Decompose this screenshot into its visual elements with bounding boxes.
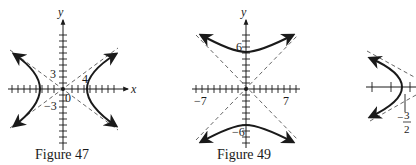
figure-caption-49: Figure 49 <box>217 147 271 163</box>
tick-label-origin: 0 <box>65 91 71 105</box>
tick-label-x-neg: −7 <box>194 94 207 108</box>
figure-47: y x 3 −3 4 0 <box>8 5 137 150</box>
figure-49: y 6 −6 −7 7 <box>192 5 300 148</box>
tick-label-x-pos: 4 <box>82 72 88 86</box>
origin-dot <box>244 87 248 91</box>
y-axis-label: y <box>57 5 64 19</box>
hyperbola-branch-top <box>201 35 293 52</box>
tick-label-y-pos: 6 <box>236 40 242 54</box>
tick-label-frac-sign: − <box>397 111 403 123</box>
figure-partial: − 3 2 <box>366 51 416 135</box>
x-axis-label: x <box>130 82 137 96</box>
tick-label-frac-den: 2 <box>404 123 410 135</box>
y-axis-label: y <box>240 5 247 19</box>
figure-caption-47: Figure 47 <box>35 147 89 163</box>
tick-label-y-neg: −6 <box>232 125 245 139</box>
tick-label-y-neg: −3 <box>44 99 57 113</box>
figures-canvas: y x 3 −3 4 0 y 6 −6 −7 7 <box>0 0 416 165</box>
tick-label-y-pos: 3 <box>50 67 56 81</box>
asymptote-line <box>367 51 416 78</box>
tick-label-x-pos: 7 <box>283 94 289 108</box>
hyperbola-branch-bottom <box>201 125 293 142</box>
tick-label-frac-num: 3 <box>404 109 410 121</box>
hyperbola-branch-right <box>87 54 116 126</box>
